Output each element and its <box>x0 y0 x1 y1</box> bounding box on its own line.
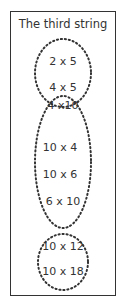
label-4x5: 4 x 5 <box>33 81 93 94</box>
label-4x10: 4 x10 <box>33 99 93 112</box>
label-6x10: 6 x 10 <box>33 195 93 208</box>
ellipse-group-2 <box>35 96 91 228</box>
label-10x4: 10 x 4 <box>30 141 90 154</box>
label-10x6: 10 x 6 <box>30 168 90 181</box>
label-2x5: 2 x 5 <box>33 55 93 68</box>
label-10x18: 10 x 18 <box>33 265 93 278</box>
ellipse-group-1 <box>35 39 91 107</box>
label-10x12: 10 x 12 <box>33 240 93 253</box>
